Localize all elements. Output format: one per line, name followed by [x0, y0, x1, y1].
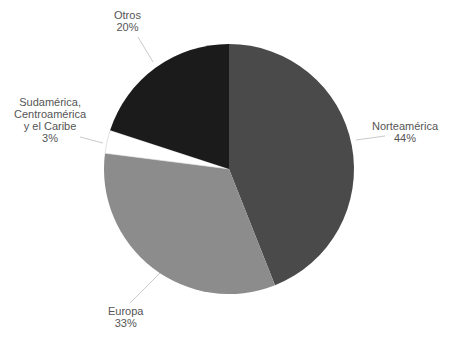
label-name: y el Caribe [14, 120, 86, 132]
label-sudamerica: Sudamérica, Centroamérica y el Caribe 3% [14, 96, 86, 144]
label-norteamerica: Norteamérica 44% [372, 120, 438, 144]
label-pct: 33% [108, 317, 143, 329]
leader-otros [138, 37, 153, 62]
leader-europa [130, 273, 160, 303]
label-pct: 20% [114, 21, 141, 33]
label-otros: Otros 20% [114, 9, 141, 33]
label-pct: 3% [14, 132, 86, 144]
label-europa: Europa 33% [108, 305, 143, 329]
label-name: Otros [114, 9, 141, 21]
label-name: Centroamérica [14, 108, 86, 120]
label-name: Norteamérica [372, 120, 438, 132]
pie-chart [0, 0, 460, 340]
label-name: Europa [108, 305, 143, 317]
label-name: Sudamérica, [14, 96, 86, 108]
label-pct: 44% [372, 132, 438, 144]
